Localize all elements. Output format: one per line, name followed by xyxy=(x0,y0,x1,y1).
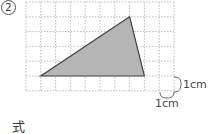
triangle-grid-figure xyxy=(0,0,211,134)
answer-expression-label: 式 xyxy=(12,116,25,134)
horizontal-scale-label: 1cm xyxy=(155,97,179,110)
vertical-scale-brace xyxy=(174,77,181,92)
vertical-scale-label: 1cm xyxy=(183,78,207,91)
